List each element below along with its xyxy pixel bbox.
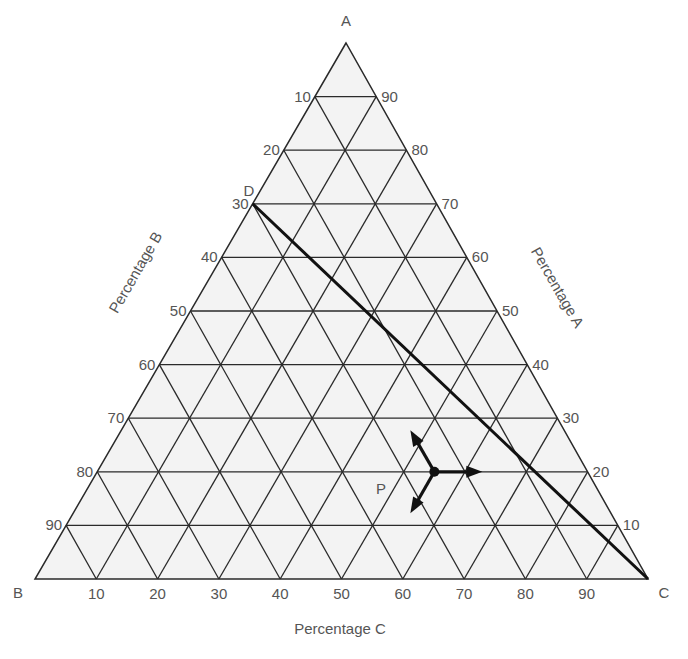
- ternary-diagram: A B C D P 102030405060708090 90807060504…: [0, 0, 688, 659]
- right-tick-label: 90: [381, 88, 398, 105]
- left-tick-label: 40: [201, 248, 218, 265]
- bottom-tick-label: 30: [211, 585, 228, 602]
- left-tick-label: 10: [294, 88, 311, 105]
- bottom-tick-label: 10: [88, 585, 105, 602]
- left-tick-label: 60: [139, 356, 156, 373]
- bottom-tick-label: 40: [272, 585, 289, 602]
- right-tick-label: 10: [623, 516, 640, 533]
- axis-title-c: Percentage C: [294, 620, 386, 637]
- left-tick-label: 30: [232, 195, 249, 212]
- point-label-p: P: [376, 480, 386, 497]
- left-tick-label: 20: [263, 141, 280, 158]
- right-tick-label: 50: [502, 302, 519, 319]
- axis-title-a: Percentage A: [528, 244, 588, 331]
- right-tick-label: 80: [411, 141, 428, 158]
- axis-title-b: Percentage B: [105, 229, 165, 316]
- bottom-tick-label: 90: [578, 585, 595, 602]
- right-tick-label: 60: [472, 248, 489, 265]
- left-tick-label: 50: [170, 302, 187, 319]
- bottom-tick-label: 60: [394, 585, 411, 602]
- point-p-marker: [429, 467, 439, 477]
- vertex-label-c: C: [659, 584, 670, 601]
- left-tick-label: 80: [77, 463, 94, 480]
- left-tick-label: 70: [108, 409, 125, 426]
- right-tick-label: 20: [593, 463, 610, 480]
- bottom-tick-label: 80: [517, 585, 534, 602]
- right-tick-label: 70: [442, 195, 459, 212]
- left-tick-label: 90: [45, 516, 62, 533]
- bottom-tick-label: 70: [456, 585, 473, 602]
- vertex-label-b: B: [13, 584, 23, 601]
- bottom-tick-label: 50: [333, 585, 350, 602]
- vertex-label-a: A: [341, 12, 351, 29]
- right-tick-label: 40: [532, 356, 549, 373]
- bottom-tick-label: 20: [149, 585, 166, 602]
- right-tick-label: 30: [562, 409, 579, 426]
- bottom-tick-labels: 102030405060708090: [88, 585, 595, 602]
